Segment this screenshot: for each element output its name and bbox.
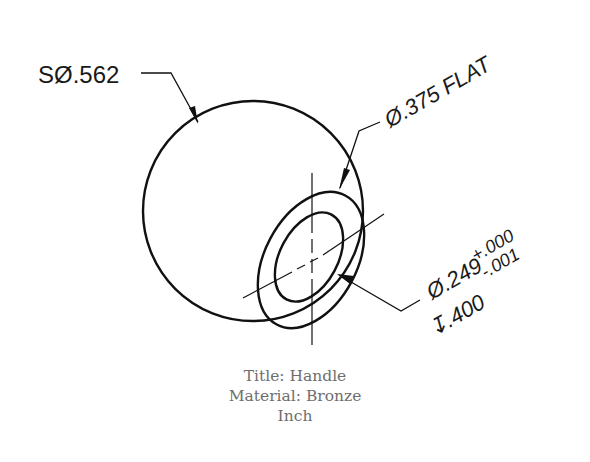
title-block: Title: Handle Material: Bronze Inch <box>195 366 395 426</box>
sphere-diameter-leader <box>141 73 198 124</box>
material-label: Material: Bronze <box>195 386 395 406</box>
arrowhead-icon <box>339 168 350 190</box>
units-label: Inch <box>195 406 395 426</box>
hole-diameter-leader <box>337 274 420 311</box>
sphere-diameter-callout: SØ.562 <box>38 61 119 88</box>
sphere-outline <box>143 101 363 321</box>
title-label: Title: Handle <box>195 366 395 386</box>
flat-diameter-callout: Ø.375 FLAT <box>379 51 496 133</box>
